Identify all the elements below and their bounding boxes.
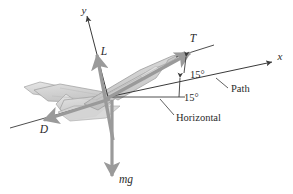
aircraft-force-diagram: y x L T D mg 15° 15° Path Horizontal	[0, 0, 293, 194]
lift-label: L	[100, 45, 107, 57]
x-axis-label: x	[277, 50, 283, 62]
path-leader-line	[216, 78, 228, 88]
horizontal-label: Horizontal	[176, 112, 221, 123]
aircraft-fuselage-seam	[96, 58, 176, 100]
thrust-vector	[106, 53, 190, 99]
figure-canvas: y x L T D mg 15° 15° Path Horizontal	[0, 0, 293, 194]
thrust-label: T	[190, 32, 198, 44]
angle-of-attack-label: 15°	[190, 69, 205, 80]
flight-path-angle-tick	[179, 78, 180, 97]
weight-label: mg	[119, 173, 133, 186]
angle-of-attack-tick	[184, 57, 186, 73]
path-label: Path	[231, 83, 250, 94]
y-axis-label: y	[81, 4, 87, 16]
thrust-axis-extension	[176, 45, 214, 57]
drag-label: D	[39, 123, 49, 135]
horizontal-leader-line	[160, 99, 174, 115]
flight-path-angle-label: 15°	[184, 92, 199, 103]
